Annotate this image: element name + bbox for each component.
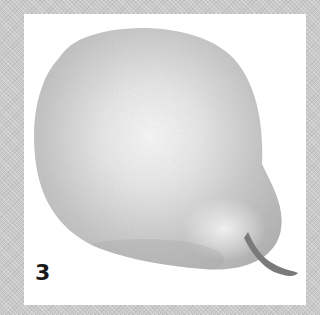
pear-illustration xyxy=(24,14,306,305)
illustration-card: 3 xyxy=(24,14,306,305)
figure-number: 3 xyxy=(35,262,50,284)
